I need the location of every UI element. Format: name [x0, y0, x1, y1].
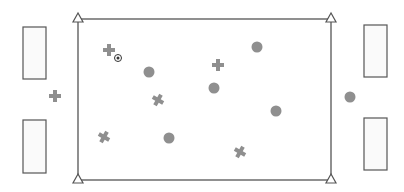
cone-icon	[73, 13, 83, 22]
player-cross-icon	[150, 92, 166, 108]
goal-left-bottom	[23, 120, 46, 173]
player-cross-icon	[232, 144, 248, 160]
player-cross-icon	[103, 44, 115, 56]
player-circle-icon	[271, 106, 282, 117]
soccer-drill-diagram	[0, 0, 404, 192]
player-circle-icon	[252, 42, 263, 53]
ball-icon	[115, 55, 122, 62]
player-circle-icon	[345, 92, 356, 103]
player-circle-icon	[164, 133, 175, 144]
corner-cones	[73, 13, 336, 183]
player-cross-icon	[49, 90, 61, 102]
player-circle-icon	[144, 67, 155, 78]
team-crosses	[49, 44, 248, 160]
cone-icon	[73, 174, 83, 183]
player-cross-icon	[212, 59, 224, 71]
field-boundary	[78, 19, 331, 180]
goal-left-top	[23, 27, 46, 79]
goal-right-bottom	[364, 118, 387, 170]
player-cross-icon	[96, 129, 112, 145]
goal-right-top	[364, 25, 387, 77]
cone-icon	[326, 13, 336, 22]
cone-icon	[326, 174, 336, 183]
player-circle-icon	[209, 83, 220, 94]
team-circles	[144, 42, 356, 144]
